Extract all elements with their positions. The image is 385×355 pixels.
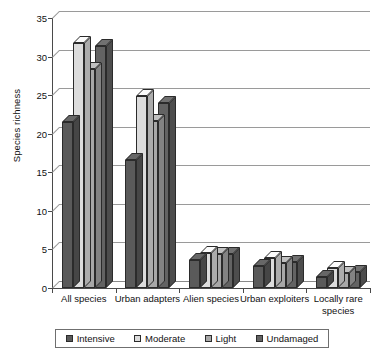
bar	[316, 277, 327, 288]
y-axis-tick-label: 5	[25, 244, 47, 255]
bar-front-face	[189, 260, 200, 288]
y-axis-tickmark	[48, 95, 52, 96]
legend-swatch-icon	[205, 335, 212, 342]
y-axis-tick-label: 15	[25, 167, 47, 178]
bar-side-face	[169, 96, 176, 288]
y-axis-tick-label: 20	[25, 128, 47, 139]
x-axis-category-label: Urban adapters	[113, 293, 183, 305]
chart-legend: IntensiveModerateLightUndamaged	[55, 329, 329, 348]
bar-side-face	[84, 36, 91, 288]
legend-item[interactable]: Moderate	[134, 333, 185, 344]
legend-swatch-icon	[134, 335, 141, 342]
y-axis-tick-label: 10	[25, 205, 47, 216]
plot-area: 05101520253035	[52, 18, 370, 288]
legend-swatch-icon	[256, 335, 263, 342]
y-axis-title: Species richness	[11, 66, 22, 186]
bar-side-face	[233, 247, 240, 288]
bar	[125, 160, 136, 288]
x-axis-category-label: Locally rare species	[303, 293, 373, 316]
bar-front-face	[253, 266, 264, 288]
bar-side-face	[147, 89, 154, 288]
y-axis-tickmark	[48, 211, 52, 212]
y-axis-tickmark	[48, 249, 52, 250]
x-axis-category-label: Urban exploiters	[240, 293, 310, 305]
y-axis-tickmark	[48, 18, 52, 19]
species-richness-bar-chart: Species richness 05101520253035 All spec…	[0, 0, 385, 355]
bar-front-face	[62, 122, 73, 288]
legend-item[interactable]: Undamaged	[256, 333, 319, 344]
x-axis-category-label: All species	[49, 293, 119, 305]
bar	[62, 122, 73, 288]
bar-front-face	[125, 160, 136, 288]
legend-item-label: Intensive	[77, 333, 115, 344]
x-axis-category-label: Alien species	[176, 293, 246, 305]
bar-side-face	[222, 247, 229, 288]
legend-item-label: Moderate	[145, 333, 185, 344]
bar-side-face	[158, 114, 165, 288]
bar	[253, 266, 264, 288]
legend-item[interactable]: Light	[205, 333, 237, 344]
bar-front-face	[316, 277, 327, 288]
legend-item-label: Light	[216, 333, 237, 344]
gridline	[59, 11, 370, 12]
bar-side-face	[136, 153, 143, 288]
bar-side-face	[106, 39, 113, 288]
y-axis-tickmark	[48, 172, 52, 173]
bar-side-face	[95, 62, 102, 288]
legend-item[interactable]: Intensive	[66, 333, 115, 344]
bar	[189, 260, 200, 288]
y-axis-tick-label: 0	[25, 283, 47, 294]
y-axis-tick-label: 25	[25, 90, 47, 101]
y-axis-tickmark	[48, 134, 52, 135]
legend-item-label: Undamaged	[267, 333, 319, 344]
legend-swatch-icon	[66, 335, 73, 342]
y-axis-tickmark	[48, 57, 52, 58]
bar-side-face	[73, 115, 80, 288]
y-axis-tick-label: 30	[25, 51, 47, 62]
y-axis-tick-label: 35	[25, 13, 47, 24]
